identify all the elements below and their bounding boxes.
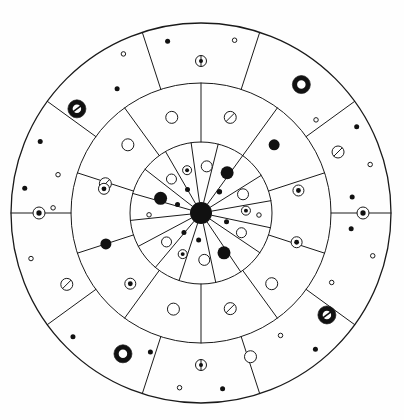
- outer-ring-marker-5-open: [314, 118, 319, 123]
- inner-ring-marker-2-dot: [221, 166, 234, 179]
- outer-ring-marker-23-slashed: [61, 278, 73, 290]
- open-circle-icon: [147, 213, 152, 218]
- center-dot-icon: [199, 363, 203, 367]
- inner-ring-marker-4-dot: [217, 189, 223, 195]
- filled-dot-icon: [100, 238, 111, 249]
- inner-ring-marker-5-dot: [185, 187, 190, 192]
- center-dot-icon: [296, 188, 301, 193]
- inner-ring-marker-1-dotted: [183, 166, 192, 175]
- filled-dot-icon: [218, 246, 231, 259]
- open-circle-icon: [56, 172, 61, 177]
- filled-dot-icon: [165, 39, 170, 44]
- filled-dot-icon: [175, 202, 180, 207]
- center-dot-icon: [244, 209, 248, 213]
- inner-ring-marker-11-dot: [224, 219, 229, 224]
- center-dot-icon: [102, 186, 107, 191]
- filled-dot-icon: [313, 347, 318, 352]
- inner-ring-marker-7-open: [238, 189, 249, 200]
- center-dot-icon: [185, 168, 189, 172]
- middle-ring-marker-9-dot: [100, 238, 111, 249]
- center-dot-icon: [199, 59, 203, 63]
- open-circle-icon: [266, 278, 278, 290]
- hub-layer: [190, 202, 212, 224]
- outer-ring-marker-22-dot: [148, 350, 153, 355]
- outer-ring-marker-28-open: [56, 172, 61, 177]
- filled-dot-icon: [115, 86, 120, 91]
- outer-ring-marker-25-open: [51, 206, 56, 211]
- inner-ring-marker-0-open: [201, 161, 212, 172]
- middle-ring-marker-1-slashed: [224, 111, 236, 123]
- outer-ring-marker-17-dot: [220, 386, 225, 391]
- open-circle-icon: [177, 385, 182, 390]
- middle-ring-marker-2-dot: [269, 139, 280, 150]
- open-circle-icon: [51, 206, 56, 211]
- outer-ring-marker-11-open: [370, 254, 375, 259]
- open-circle-icon: [329, 280, 334, 285]
- outer-ring-marker-32-open: [121, 52, 126, 57]
- open-circle-icon: [29, 256, 34, 261]
- filled-dot-icon: [354, 124, 359, 129]
- outer-ring-marker-12-annulus_slashed: [318, 306, 336, 324]
- center-dot-icon: [128, 281, 133, 286]
- inner-ring-marker-8-dotted: [241, 206, 250, 215]
- radial-disc-diagram: [0, 0, 404, 420]
- center-dot-icon: [181, 252, 185, 256]
- outer-ring-marker-0-dot: [165, 39, 170, 44]
- inner-ring-marker-6-dot: [154, 192, 167, 205]
- open-circle-icon: [232, 38, 237, 43]
- open-circle-icon: [278, 333, 283, 338]
- filled-dot-icon: [269, 139, 280, 150]
- outer-ring-marker-31-dot: [115, 86, 120, 91]
- outer-ring-marker-15-open: [278, 333, 283, 338]
- open-circle-icon: [368, 162, 373, 167]
- inner-ring-marker-9-open: [147, 213, 152, 218]
- open-circle-icon: [162, 237, 172, 247]
- inner-ring-marker-13-dot: [218, 246, 231, 259]
- open-circle-icon: [167, 303, 179, 315]
- outer-ring-marker-30-dot: [38, 139, 43, 144]
- middle-ring-marker-8-dotted: [125, 278, 136, 289]
- outer-ring-marker-16-open: [244, 351, 256, 363]
- outer-ring-marker-24-open: [29, 256, 34, 261]
- center-dot-icon: [294, 240, 299, 245]
- open-circle-icon: [122, 139, 134, 151]
- filled-dot-icon: [181, 230, 186, 235]
- filled-dot-icon: [185, 187, 190, 192]
- outer-ring-marker-2-crosshair: [196, 56, 207, 67]
- center-dot-icon: [36, 210, 41, 215]
- outer-ring-marker-8-dot: [350, 195, 355, 200]
- filled-dot-icon: [350, 195, 355, 200]
- middle-ring-marker-11-open: [122, 139, 134, 151]
- inner-ring-marker-17-dot: [181, 230, 186, 235]
- filled-dot-icon: [148, 350, 153, 355]
- middle-ring-marker-5-open: [266, 278, 278, 290]
- inner-ring-marker-16-open: [162, 237, 172, 247]
- outer-ring-marker-26-dotted: [33, 207, 45, 219]
- filled-dot-icon: [196, 237, 201, 242]
- middle-ring-marker-4-dotted: [291, 237, 302, 248]
- inner-ring-marker-10-open: [257, 213, 262, 218]
- diagram-canvas: [0, 0, 404, 420]
- middle-ring-marker-3-dotted: [293, 185, 304, 196]
- outer-ring-marker-13-open: [329, 280, 334, 285]
- open-circle-icon: [121, 52, 126, 57]
- outer-ring-marker-9-dotted: [357, 207, 369, 219]
- inner-ring-marker-19-dot: [175, 202, 180, 207]
- open-circle-icon: [238, 189, 249, 200]
- inner-ring-marker-3-open: [166, 174, 176, 184]
- center-hub-icon: [190, 202, 212, 224]
- outer-ring-marker-14-dot: [313, 347, 318, 352]
- inner-ring-marker-14-open: [199, 254, 210, 265]
- open-circle-icon: [199, 254, 210, 265]
- outer-ring-marker-29-annulus_slashed: [68, 100, 86, 118]
- filled-dot-icon: [22, 186, 27, 191]
- inner-ring-marker-18-dot: [196, 237, 201, 242]
- outer-ring-marker-21-dot: [70, 334, 75, 339]
- outer-ring-marker-7-open: [368, 162, 373, 167]
- open-circle-icon: [166, 174, 176, 184]
- outer-ring-marker-4-dot: [354, 124, 359, 129]
- open-circle-icon: [370, 254, 375, 259]
- middle-ring-marker-6-slashed: [224, 303, 236, 315]
- open-circle-icon: [257, 213, 262, 218]
- inner-ring-marker-15-dotted: [178, 250, 187, 259]
